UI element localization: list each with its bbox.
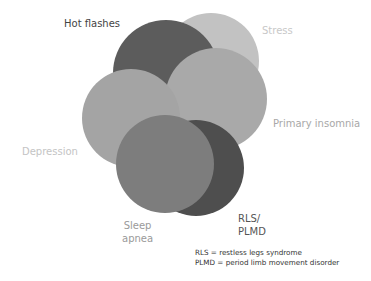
label-depression: Depression (22, 145, 78, 158)
label-sleep-apnea: Sleep apnea (122, 219, 153, 245)
label-hot-flashes: Hot flashes (64, 17, 120, 30)
legend-item-plmd: PLMD = period limb movement disorder (195, 258, 339, 268)
label-sleep-apnea-line1: Sleep (122, 219, 153, 232)
label-rls-plmd: RLS/ PLMD (238, 212, 266, 238)
label-sleep-apnea-line2: apnea (122, 232, 153, 245)
circle-diagram (0, 0, 371, 281)
label-primary-insomnia: Primary insomnia (273, 117, 360, 130)
label-stress: Stress (262, 24, 293, 37)
legend: RLS = restless legs syndrome PLMD = peri… (195, 248, 339, 268)
legend-item-rls: RLS = restless legs syndrome (195, 248, 339, 258)
label-rls-line2: PLMD (238, 225, 266, 238)
circle-sleep-apnea (116, 115, 214, 213)
label-rls-line1: RLS/ (238, 212, 266, 225)
